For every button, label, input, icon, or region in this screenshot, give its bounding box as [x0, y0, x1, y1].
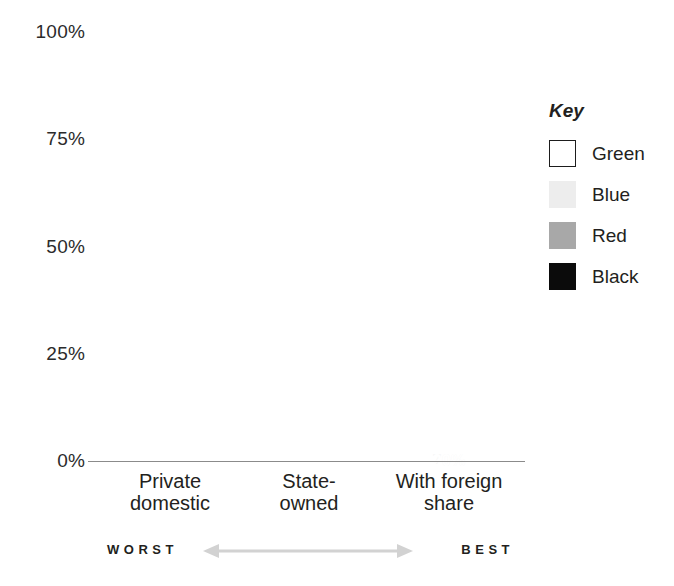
worst-best-scale: WORST BEST [95, 540, 520, 566]
legend: Key Green Blue Red Black [549, 100, 669, 297]
legend-swatch-red-icon [549, 222, 576, 249]
x-axis-line [88, 461, 525, 462]
category-label-line2: share [364, 492, 534, 514]
plot-region: 100% 75% 50% 25% 0% 53% [95, 32, 520, 461]
legend-item-red[interactable]: Red [549, 215, 669, 256]
legend-label-green: Green [592, 143, 645, 165]
chart-area: 100% 75% 50% 25% 0% 53% [0, 0, 540, 586]
legend-label-red: Red [592, 225, 627, 247]
scale-label-worst: WORST [107, 542, 178, 557]
legend-item-green[interactable]: Green [549, 133, 669, 174]
legend-swatch-blue-icon [549, 181, 576, 208]
legend-item-blue[interactable]: Blue [549, 174, 669, 215]
legend-item-black[interactable]: Black [549, 256, 669, 297]
scale-label-best: BEST [461, 542, 514, 557]
y-axis-tick-100: 100% [36, 21, 85, 43]
legend-swatch-black-icon [549, 263, 576, 290]
y-axis-tick-75: 75% [46, 128, 85, 150]
legend-title: Key [549, 100, 669, 122]
legend-label-blue: Blue [592, 184, 630, 206]
category-label-line1: With foreign [364, 470, 534, 492]
x-axis-label-with-foreign-share: With foreign share [364, 470, 534, 515]
legend-label-black: Black [592, 266, 638, 288]
double-arrow-icon [203, 540, 413, 562]
y-axis-tick-0: 0% [57, 450, 85, 472]
legend-swatch-green-icon [549, 140, 576, 167]
y-axis-tick-50: 50% [46, 236, 85, 258]
y-axis-tick-25: 25% [46, 343, 85, 365]
